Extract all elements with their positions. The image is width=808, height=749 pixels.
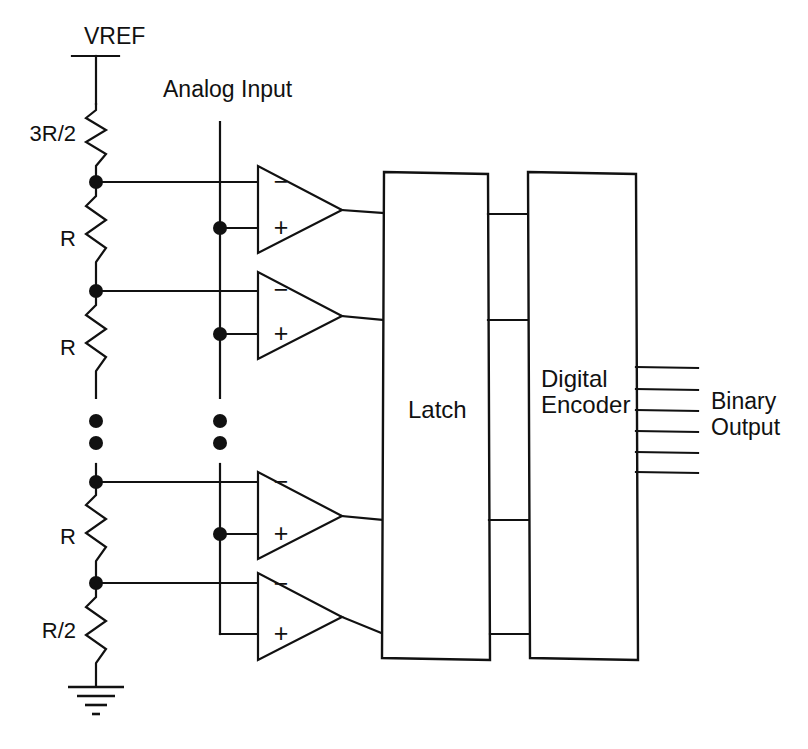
resistor-r-3-label: R	[60, 524, 76, 549]
resistor-r-1-label: R	[60, 226, 76, 251]
binary-output-label-line2: Output	[711, 414, 781, 440]
binary-output-lines	[636, 367, 698, 473]
comparator-4-plus-sign: +	[274, 619, 289, 647]
latch-block-label: Latch	[408, 396, 467, 423]
digital-encoder-label-line1: Digital	[541, 365, 608, 392]
comparator-1-plus-sign: +	[274, 213, 289, 241]
comparator-3-output	[342, 516, 384, 520]
ground-symbol	[68, 687, 124, 714]
resistor-r-3	[86, 486, 106, 581]
comparator-4[interactable]: − +	[258, 569, 342, 660]
resistor-r2-bottom-label: R/2	[42, 618, 76, 643]
resistor-r-2-label: R	[60, 335, 76, 360]
output-line-3	[636, 410, 698, 411]
comparator-3-minus-sign: −	[274, 467, 289, 495]
resistor-r-1	[86, 186, 106, 289]
comparator-1[interactable]: − +	[258, 166, 342, 253]
analog-input-bus	[213, 122, 258, 634]
latch-block[interactable]: Latch	[382, 172, 490, 660]
comparator-3-plus-sign: +	[274, 519, 289, 547]
comparator-1-minus-sign: −	[274, 167, 289, 195]
output-line-5	[636, 452, 698, 453]
resistor-r2-bottom	[86, 587, 106, 686]
vref-terminal	[72, 56, 119, 104]
resistor-3r2	[86, 104, 106, 182]
comparator-4-minus-sign: −	[274, 569, 289, 597]
output-line-2	[636, 389, 698, 390]
resistor-3r2-label: 3R/2	[30, 121, 76, 146]
vref-label: VREF	[84, 23, 145, 49]
digital-encoder-block[interactable]: Digital Encoder	[528, 172, 638, 660]
comparator-2-output	[342, 316, 384, 320]
binary-output-label-line1: Binary	[711, 388, 777, 414]
comparator-4-output	[342, 617, 384, 634]
comparator-2-minus-sign: −	[274, 275, 289, 303]
digital-encoder-label-line2: Encoder	[541, 391, 630, 418]
output-line-4	[636, 431, 698, 432]
output-line-6	[636, 472, 698, 473]
flash-adc-diagram: VREF 3R/2 R R	[0, 0, 808, 749]
schematic-canvas: VREF 3R/2 R R	[0, 0, 808, 749]
output-line-1	[636, 367, 698, 368]
comparator-3[interactable]: − +	[258, 467, 342, 559]
comparator-2-plus-sign: +	[274, 319, 289, 347]
comparator-1-output	[342, 210, 384, 213]
analog-input-label: Analog Input	[163, 76, 293, 102]
resistor-r-2	[86, 295, 106, 398]
ladder-ellipsis	[89, 414, 103, 450]
comparator-2[interactable]: − +	[258, 272, 342, 359]
